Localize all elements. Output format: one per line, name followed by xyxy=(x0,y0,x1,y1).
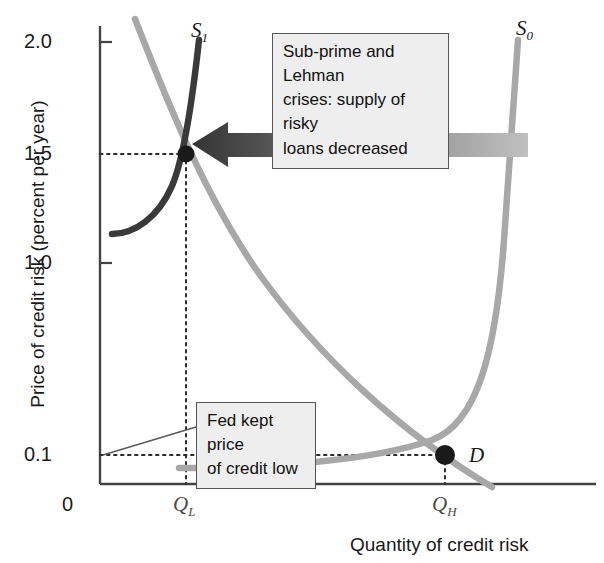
q-high-letter: Q xyxy=(432,492,447,516)
q-low-letter: Q xyxy=(173,492,188,516)
q-low-subscript: L xyxy=(188,504,195,519)
q-high-subscript: H xyxy=(447,504,456,519)
curve-label-d: D xyxy=(469,443,484,468)
x-tick-origin: 0 xyxy=(62,493,73,516)
fed-price-callout: Fed kept price of credit low xyxy=(196,402,316,489)
credit-risk-supply-demand-figure: Price of credit risk (percent per year) … xyxy=(0,0,604,563)
x-axis-title: Quantity of credit risk xyxy=(350,534,528,556)
curve-label-s0: S0 xyxy=(516,16,533,44)
s0-letter: S xyxy=(516,16,527,40)
y-tick-2-0: 2.0 xyxy=(24,30,52,53)
y-tick-1-5: 1.5 xyxy=(24,142,52,165)
s1-subscript: 1 xyxy=(202,30,209,45)
y-tick-0-1: 0.1 xyxy=(24,443,52,466)
fed-callout-line-2: of credit low xyxy=(207,457,305,481)
equilibrium-marker-ql xyxy=(178,146,195,163)
supply-callout-line-3: loans decreased xyxy=(283,137,438,161)
y-axis-tick-marks xyxy=(100,42,112,263)
x-tick-q-low: QL xyxy=(173,492,195,520)
equilibrium-marker-qh xyxy=(435,445,455,465)
curve-label-s1: S1 xyxy=(191,18,208,46)
supply-callout-line-1: Sub-prime and Lehman xyxy=(283,40,438,88)
y-tick-1-0: 1.0 xyxy=(24,251,52,274)
supply-callout-line-2: crises: supply of risky xyxy=(283,88,438,136)
s0-subscript: 0 xyxy=(527,28,534,43)
x-tick-q-high: QH xyxy=(432,492,457,520)
fed-callout-line-1: Fed kept price xyxy=(207,409,305,457)
s1-letter: S xyxy=(191,18,202,42)
supply-shift-callout: Sub-prime and Lehman crises: supply of r… xyxy=(272,33,449,169)
fed-callout-connector xyxy=(103,427,196,455)
